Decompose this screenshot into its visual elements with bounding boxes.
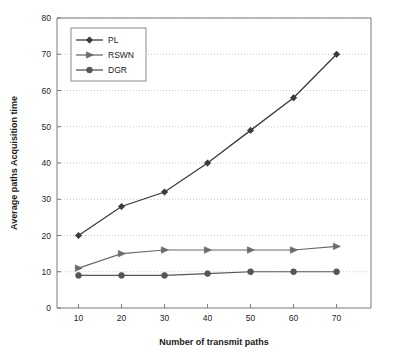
x-tick-label-60: 60 (289, 313, 299, 323)
y-tick-label-80: 80 (42, 13, 52, 23)
data-point-dgr-70 (334, 269, 340, 275)
y-tick-label-20: 20 (42, 231, 52, 241)
figure-canvas: 01020304050607080 10203040506070 PLRSWND… (0, 0, 398, 360)
x-axis-title: Number of transmit paths (159, 337, 269, 347)
data-point-dgr-10 (76, 272, 82, 278)
legend-label-dgr: DGR (108, 65, 127, 75)
x-tick-label-40: 40 (203, 313, 213, 323)
y-tick-label-0: 0 (46, 303, 51, 313)
data-point-dgr-40 (205, 271, 211, 277)
data-point-dgr-30 (162, 272, 168, 278)
y-tick-label-60: 60 (42, 86, 52, 96)
y-tick-label-10: 10 (42, 267, 52, 277)
x-tick-label-50: 50 (246, 313, 256, 323)
y-tick-label-70: 70 (42, 49, 52, 59)
line-chart: 01020304050607080 10203040506070 PLRSWND… (0, 0, 398, 360)
legend-marker-dgr (87, 67, 93, 73)
y-tick-label-40: 40 (42, 158, 52, 168)
y-tick-label-50: 50 (42, 122, 52, 132)
y-tick-label-30: 30 (42, 194, 52, 204)
x-tick-label-70: 70 (332, 313, 342, 323)
x-tick-label-30: 30 (160, 313, 170, 323)
data-point-dgr-20 (119, 272, 125, 278)
x-tick-label-10: 10 (74, 313, 84, 323)
data-point-dgr-50 (248, 269, 254, 275)
legend-label-pl: PL (108, 35, 119, 45)
chart-legend[interactable]: PLRSWNDGR (71, 28, 146, 81)
data-point-dgr-60 (291, 269, 297, 275)
legend-label-rswn: RSWN (108, 50, 134, 60)
x-tick-label-20: 20 (117, 313, 127, 323)
y-axis-title: Average paths Acquisition time (9, 96, 19, 230)
